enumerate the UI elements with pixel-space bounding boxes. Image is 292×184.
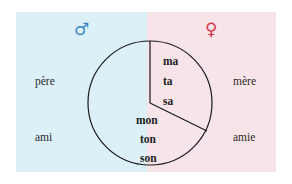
word-mon: mon — [136, 114, 158, 126]
word-amie: amie — [233, 131, 255, 143]
word-sa: sa — [163, 95, 173, 107]
word-ton: ton — [140, 133, 156, 145]
word-son: son — [140, 152, 157, 164]
word-ta: ta — [163, 75, 173, 87]
female-symbol-icon: ♀ — [205, 21, 217, 38]
word-mere: mère — [233, 75, 256, 87]
word-pere: père — [35, 75, 55, 87]
word-ami: ami — [35, 131, 52, 143]
word-ma: ma — [163, 55, 178, 67]
male-symbol-icon: ♂ — [74, 21, 89, 38]
